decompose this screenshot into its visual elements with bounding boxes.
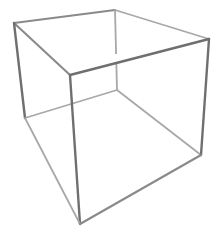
edge-left-vertical bbox=[14, 23, 25, 118]
edge-front-vertical bbox=[70, 75, 80, 224]
edge-top-front-right bbox=[70, 39, 209, 75]
edge-right-vertical bbox=[201, 39, 209, 155]
edge-back-bottom-right bbox=[117, 90, 201, 155]
edge-back-vertical bbox=[115, 10, 117, 90]
edge-bottom-front-right bbox=[80, 155, 201, 224]
edge-top-left-front bbox=[14, 23, 70, 75]
edge-bottom-left-front bbox=[25, 118, 80, 224]
edge-top-left-back bbox=[14, 10, 115, 23]
edge-top-back-right bbox=[115, 10, 209, 39]
wireframe-cube bbox=[0, 0, 216, 237]
figure-canvas bbox=[0, 0, 216, 237]
